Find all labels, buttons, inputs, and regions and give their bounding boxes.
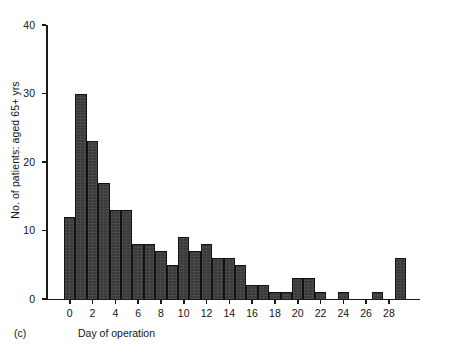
y-tick-mark: [42, 161, 46, 163]
bar: [315, 292, 326, 299]
bar: [121, 210, 132, 299]
x-tick-label: 26: [356, 308, 376, 319]
panel-tag: (c): [14, 327, 26, 339]
bar: [178, 237, 189, 299]
x-tick-label: 22: [311, 308, 331, 319]
bar: [201, 244, 212, 299]
bar: [132, 244, 143, 299]
y-tick-label: 40: [9, 20, 35, 31]
bar: [303, 278, 314, 299]
y-tick-label: 0: [9, 294, 35, 305]
bar: [155, 251, 166, 299]
x-tick-label: 10: [174, 308, 194, 319]
x-tick-mark: [251, 300, 253, 304]
y-tick-mark: [42, 93, 46, 95]
x-tick-mark: [343, 300, 345, 304]
histogram-figure: No. of patients: aged 65+ yrs 010203040 …: [0, 0, 459, 357]
bar: [372, 292, 383, 299]
bar: [64, 217, 75, 299]
x-tick-label: 18: [265, 308, 285, 319]
y-axis-line: [46, 25, 48, 299]
x-axis-label: Day of operation: [78, 327, 155, 339]
x-tick-mark: [69, 300, 71, 304]
x-tick-mark: [137, 300, 139, 304]
bar: [292, 278, 303, 299]
x-tick-label: 16: [242, 308, 262, 319]
x-tick-mark: [274, 300, 276, 304]
x-tick-label: 12: [197, 308, 217, 319]
y-axis-label-text: No. of patients: aged 65+ yrs: [9, 81, 21, 218]
y-tick-label: 20: [9, 157, 35, 168]
bar: [269, 292, 280, 299]
bar: [144, 244, 155, 299]
x-tick-label: 20: [288, 308, 308, 319]
x-tick-mark: [297, 300, 299, 304]
x-tick-label: 4: [105, 308, 125, 319]
x-tick-mark: [229, 300, 231, 304]
bar: [224, 258, 235, 299]
bar: [110, 210, 121, 299]
x-tick-mark: [206, 300, 208, 304]
x-tick-mark: [388, 300, 390, 304]
bar: [235, 265, 246, 299]
bar: [246, 285, 257, 299]
x-tick-label: 14: [219, 308, 239, 319]
y-axis-label: No. of patients: aged 65+ yrs: [2, 0, 28, 300]
y-tick-mark: [42, 24, 46, 26]
x-tick-label: 6: [128, 308, 148, 319]
bar: [98, 183, 109, 299]
x-tick-label: 24: [333, 308, 353, 319]
x-tick-mark: [160, 300, 162, 304]
x-tick-mark: [320, 300, 322, 304]
x-tick-label: 8: [151, 308, 171, 319]
bar: [395, 258, 406, 299]
x-tick-mark: [92, 300, 94, 304]
bar: [212, 258, 223, 299]
x-tick-label: 0: [60, 308, 80, 319]
bar: [338, 292, 349, 299]
bar: [281, 292, 292, 299]
x-tick-mark: [183, 300, 185, 304]
x-tick-mark: [365, 300, 367, 304]
y-tick-label: 10: [9, 225, 35, 236]
x-tick-label: 28: [379, 308, 399, 319]
x-tick-label: 2: [83, 308, 103, 319]
bar: [167, 265, 178, 299]
y-tick-label: 30: [9, 88, 35, 99]
x-tick-mark: [115, 300, 117, 304]
bar: [189, 251, 200, 299]
x-axis-line: [46, 299, 420, 300]
bar: [87, 141, 98, 299]
bar: [258, 285, 269, 299]
y-tick-mark: [42, 230, 46, 232]
bar: [75, 94, 86, 300]
y-tick-mark: [42, 298, 46, 300]
